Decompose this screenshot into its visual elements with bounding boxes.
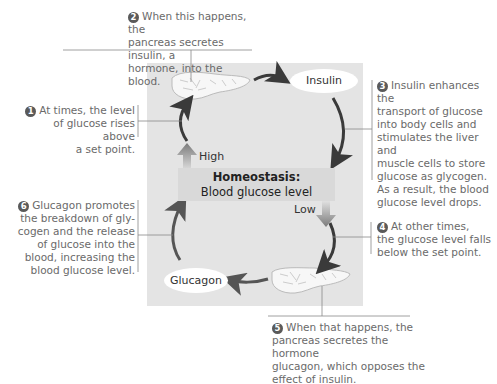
- high-label: High: [199, 150, 224, 163]
- step-number-badge: 4: [377, 222, 388, 233]
- homeostasis-box: Homeostasis: Blood glucose level: [178, 168, 335, 201]
- step-6-line: blood, increasing the: [25, 251, 135, 263]
- insulin-label: Insulin: [306, 74, 342, 87]
- step-3-line: stimulates the liver and: [377, 131, 479, 156]
- step-5-line: glucagon, which opposes the: [272, 360, 425, 372]
- step-6-line: of glucose into the: [37, 238, 135, 250]
- step-number-badge: 5: [272, 323, 283, 334]
- step-5-line: effect of insulin.: [272, 373, 356, 384]
- step-number-badge: 3: [377, 81, 388, 92]
- step-3-line: Insulin enhances the: [377, 79, 479, 104]
- step-number-badge: 2: [128, 12, 139, 23]
- step-6-line: blood glucose level.: [31, 264, 135, 276]
- step-1-line: of glucose rises above: [53, 117, 135, 142]
- step-number-badge: 1: [25, 106, 36, 117]
- step-6-line: cogen and the release: [18, 225, 135, 237]
- step-1-line: At times, the level: [39, 104, 135, 116]
- pancreas-bottom-icon: [272, 268, 350, 293]
- step-2-line: pancreas secretes insulin, a: [128, 36, 224, 61]
- step-2-line: When this happens, the: [128, 10, 246, 35]
- step-5-note: 5When that happens, the pancreas secrete…: [272, 321, 432, 384]
- homeostasis-subtitle: Blood glucose level: [201, 185, 312, 199]
- insulin-oval: Insulin: [290, 69, 358, 93]
- step-3-line: glucose as glycogen.: [377, 170, 487, 182]
- step-5-line: pancreas secretes the hormone: [272, 334, 388, 359]
- step-2-note: 2When this happens, the pancreas secrete…: [128, 10, 258, 88]
- step-6-note: 6Glucagon promotes the breakdown of gly-…: [14, 199, 135, 277]
- homeostasis-title: Homeostasis:: [178, 170, 335, 185]
- step-6-line: Glucagon promotes: [32, 199, 135, 211]
- step-5-line: When that happens, the: [286, 321, 413, 333]
- step-4-line: the glucose level falls: [377, 233, 491, 245]
- step-3-line: transport of glucose: [377, 105, 483, 117]
- step-4-note: 4At other times, the glucose level falls…: [377, 220, 497, 259]
- step-3-line: glucose level drops.: [377, 196, 482, 208]
- step-3-line: As a result, the blood: [377, 183, 489, 195]
- step-3-line: muscle cells to store: [377, 157, 485, 169]
- step-number-badge: 6: [18, 201, 29, 212]
- step-1-note: 1At times, the level of glucose rises ab…: [18, 104, 135, 156]
- glucagon-oval: Glucagon: [164, 268, 228, 293]
- step-6-line: the breakdown of gly-: [20, 212, 135, 224]
- glucagon-label: Glucagon: [170, 274, 222, 287]
- step-1-line: a set point.: [76, 143, 135, 155]
- low-label: Low: [294, 203, 316, 216]
- step-2-line: hormone, into the blood.: [128, 62, 222, 87]
- step-4-line: below the set point.: [377, 246, 481, 258]
- step-4-line: At other times,: [391, 220, 469, 232]
- step-3-line: into body cells and: [377, 118, 476, 130]
- step-3-note: 3Insulin enhances the transport of gluco…: [377, 79, 497, 209]
